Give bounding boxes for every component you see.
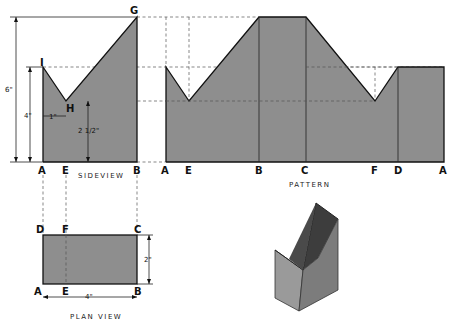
- pattern-label-d: D: [394, 165, 402, 176]
- pattern-label-b: B: [255, 165, 263, 176]
- dim-1-label: 1": [49, 113, 57, 121]
- side-view-shape: [43, 17, 137, 162]
- pattern-label-a2: A: [439, 165, 447, 176]
- pattern-shape: [166, 17, 444, 162]
- plan-label-a: A: [34, 286, 42, 297]
- dim-depth-label: 2": [144, 256, 152, 264]
- pattern-caption: PATTERN: [289, 181, 330, 189]
- dim-4-label: 4": [24, 112, 32, 120]
- point-a: A: [38, 165, 46, 176]
- point-e: E: [62, 165, 69, 176]
- pattern-label-e: E: [185, 165, 192, 176]
- point-g: G: [130, 5, 138, 16]
- point-h: H: [66, 103, 74, 114]
- dim-width-label: 4": [85, 293, 93, 301]
- side-view-caption: SIDEVIEW: [78, 172, 125, 180]
- pattern-label-f: F: [371, 165, 378, 176]
- plan-label-d: D: [36, 224, 44, 235]
- pattern-label-c: C: [301, 165, 308, 176]
- drawing-canvas: 6" 4" 1" 2 1/2" G I H A E B SIDEVIEW A: [0, 0, 460, 327]
- pattern-label-a: A: [161, 165, 169, 176]
- pattern-labels: A E B C F D A: [161, 165, 447, 176]
- isometric-model: [275, 203, 338, 311]
- plan-view-rect: [43, 235, 137, 284]
- dim-2half-label: 2 1/2": [78, 127, 99, 135]
- plan-label-f: F: [62, 224, 69, 235]
- pattern: A E B C F D A PATTERN: [161, 17, 447, 189]
- point-b: B: [133, 165, 141, 176]
- plan-label-e: E: [62, 286, 69, 297]
- point-i: I: [40, 57, 44, 68]
- plan-label-c: C: [134, 224, 141, 235]
- plan-view: 2" 4" D F C A E B PLAN VIEW: [34, 224, 153, 321]
- side-view: 6" 4" 1" 2 1/2" G I H A E B SIDEVIEW: [5, 5, 141, 180]
- dim-6-label: 6": [5, 86, 13, 94]
- plan-label-b: B: [134, 286, 142, 297]
- plan-view-caption: PLAN VIEW: [70, 313, 122, 321]
